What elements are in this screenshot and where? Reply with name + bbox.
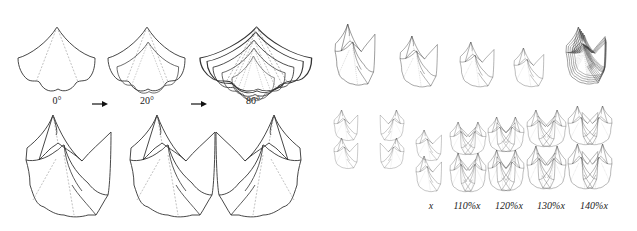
- tessellation-130: [527, 110, 566, 189]
- module-single-large: [26, 115, 111, 217]
- fan-80deg: [200, 27, 312, 101]
- fan-20deg: [108, 27, 185, 93]
- scale-label-130: 130%x: [537, 200, 565, 211]
- angle-label-20: 20°: [140, 95, 154, 106]
- module-pair-mirrored: [130, 115, 301, 217]
- module-medium: [400, 36, 437, 87]
- figure-canvas: [0, 0, 637, 231]
- angle-label-80: 80°: [246, 95, 260, 106]
- module-smallest: [514, 48, 544, 87]
- tessellation-x: [416, 130, 442, 192]
- arrow-right-icon: [92, 101, 108, 107]
- fan-0deg: [18, 27, 95, 91]
- tessellation-base: [334, 110, 404, 169]
- scale-label-110: 110%x: [453, 200, 480, 211]
- module-overlay: [566, 27, 606, 84]
- tessellation-120: [488, 117, 524, 191]
- scale-label-x: x: [429, 200, 433, 211]
- scale-label-140: 140%x: [580, 200, 608, 211]
- tessellation-110: [450, 122, 486, 192]
- angle-label-0: 0°: [53, 95, 62, 106]
- module-large: [335, 24, 375, 85]
- scale-label-120: 120%x: [495, 200, 523, 211]
- arrow-right-icon: [191, 101, 207, 107]
- module-small: [460, 42, 494, 87]
- tessellation-140: [568, 106, 612, 189]
